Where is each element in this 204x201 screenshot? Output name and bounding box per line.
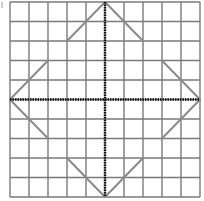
grid-diagram [0,0,204,201]
